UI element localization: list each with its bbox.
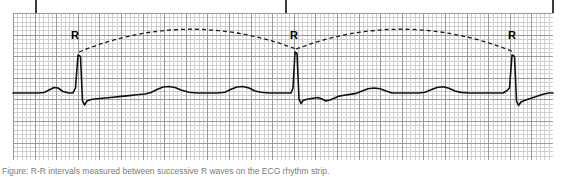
r-wave-label-2: R bbox=[290, 30, 298, 41]
ecg-grid-paper bbox=[13, 13, 553, 160]
r-wave-label-1: R bbox=[71, 30, 79, 41]
r-wave-label-3: R bbox=[508, 30, 516, 41]
ruler-tick-3 bbox=[552, 0, 554, 13]
ecg-figure: R R R Figure: R-R intervals measured bet… bbox=[0, 0, 564, 177]
ruler-tick-1 bbox=[35, 0, 37, 13]
ruler-tick-2 bbox=[285, 0, 287, 13]
figure-caption: Figure: R-R intervals measured between s… bbox=[2, 166, 562, 176]
